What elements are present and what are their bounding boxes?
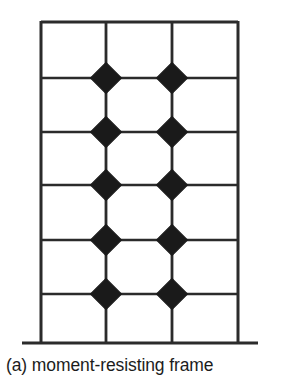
diagram-background: [0, 0, 285, 381]
figure-caption: (a) moment-resisting frame: [0, 350, 285, 381]
moment-resisting-frame-diagram: [0, 0, 285, 381]
figure-caption-text: (a) moment-resisting frame: [6, 357, 213, 375]
figure-root: (a) moment-resisting frame: [0, 0, 285, 381]
